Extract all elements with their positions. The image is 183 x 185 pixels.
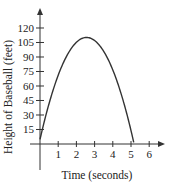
y-tick-label: 45 xyxy=(23,94,35,106)
x-tick-label: 4 xyxy=(110,148,116,160)
x-axis-title: Time (seconds) xyxy=(62,169,133,182)
x-axis-arrow-icon xyxy=(158,141,165,147)
data-curve xyxy=(40,37,134,142)
x-tick-label: 3 xyxy=(92,148,98,160)
y-tick-label: 60 xyxy=(23,80,35,92)
x-tick-label: 5 xyxy=(128,148,134,160)
y-axis-arrow-icon xyxy=(37,8,43,15)
y-tick-label: 15 xyxy=(23,123,35,135)
y-tick-label: 105 xyxy=(18,36,35,48)
x-tick-label: 1 xyxy=(55,148,61,160)
x-tick-label: 2 xyxy=(74,148,80,160)
x-tick-label: 6 xyxy=(146,148,152,160)
axes: 123456153045607590105120 xyxy=(18,8,166,170)
y-tick-label: 30 xyxy=(23,109,35,121)
y-tick-label: 120 xyxy=(18,22,35,34)
height-curve xyxy=(40,37,134,142)
y-tick-label: 75 xyxy=(23,65,35,77)
y-axis-title: Height of Baseball (feet) xyxy=(2,40,15,154)
chart: 123456153045607590105120 Time (seconds) … xyxy=(0,0,183,185)
y-tick-label: 90 xyxy=(23,51,35,63)
